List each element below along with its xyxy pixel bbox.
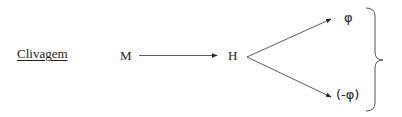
right-brace-icon xyxy=(366,8,383,111)
arrow-h-to-phi xyxy=(247,19,331,57)
arrow-h-to-minus-phi xyxy=(247,57,331,97)
diagram-arrows xyxy=(0,0,402,117)
